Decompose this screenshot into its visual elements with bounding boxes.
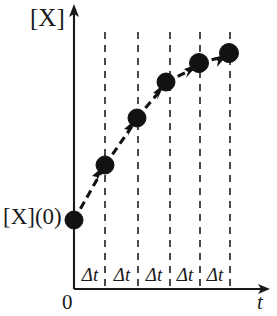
interval-label-1: Δt [76,265,104,284]
origin-label: 0 [62,292,73,313]
data-point-4 [190,54,209,73]
interval-label-4: Δt [171,265,199,284]
data-point-2 [128,109,146,127]
interval-label-3: Δt [139,265,169,284]
interval-label-2: Δt [107,265,137,284]
chart-figure: [X] [X](0) 0 t Δt Δt Δt Δt Δt [0,0,277,316]
data-point-5 [220,44,239,63]
data-point-group [65,44,239,230]
trend-connector-group [74,56,227,220]
data-point-0 [65,211,83,229]
gridline-group [105,32,230,288]
data-point-3 [157,73,175,91]
data-point-1 [96,156,114,174]
initial-value-label: [X](0) [3,205,62,228]
x-axis-label: t [257,292,263,313]
interval-label-5: Δt [201,265,229,284]
y-axis-label: [X] [30,5,65,30]
